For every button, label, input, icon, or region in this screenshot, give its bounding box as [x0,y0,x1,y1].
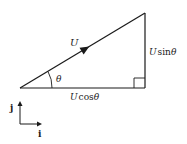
vector-triangle-diagram: U θ Usinθ Ucosθ j i [0,0,187,144]
angle-arc [48,72,52,89]
arrowhead-icon [80,43,92,54]
horizontal-component-label: Ucosθ [70,92,100,102]
i-unit-label: i [38,129,42,139]
j-arrow-icon [18,101,23,106]
vertical-component-label: Usinθ [149,47,177,57]
angle-label: θ [56,74,62,84]
j-unit-label: j [9,103,13,113]
vector-label: U [70,37,79,48]
right-angle-marker [134,78,145,88]
i-arrow-icon [37,122,42,127]
